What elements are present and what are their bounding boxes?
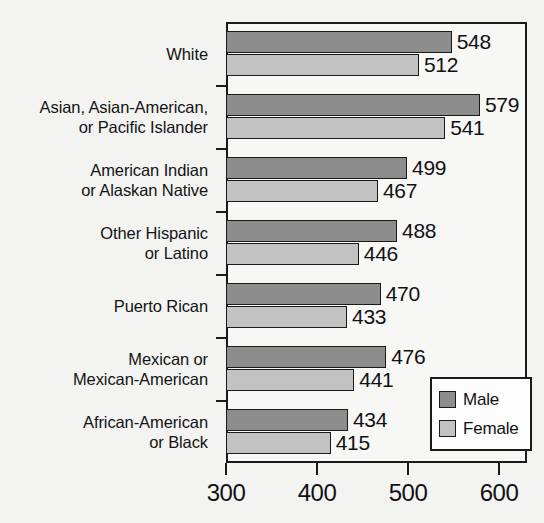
bar-rect-male[interactable] [226, 94, 480, 116]
bar-value-label-male: 499 [412, 157, 446, 179]
bar-value-label-female: 541 [450, 117, 484, 139]
bar-female[interactable]: 441 [226, 369, 393, 391]
x-axis-tick [225, 463, 227, 475]
category-group: Asian, Asian-American,or Pacific Islande… [0, 85, 544, 148]
bar-male[interactable]: 488 [226, 220, 436, 242]
bar-rect-female[interactable] [226, 54, 419, 76]
bar-rect-male[interactable] [226, 283, 381, 305]
category-group: White548512 [0, 22, 544, 85]
category-label-line: African-American [83, 412, 208, 432]
bar-male[interactable]: 470 [226, 283, 420, 305]
category-label-line: Other Hispanic [100, 223, 208, 243]
legend-label-female: Female [463, 419, 519, 439]
x-axis-tick-labels: 300400500600 [0, 479, 544, 513]
bars-area: 548512 [226, 22, 544, 85]
legend-label-male: Male [463, 390, 499, 410]
bar-rect-male[interactable] [226, 31, 452, 53]
category-label-line: Mexican-American [73, 369, 208, 389]
bar-female[interactable]: 467 [226, 180, 417, 202]
category-label-line: Puerto Rican [114, 296, 208, 316]
x-axis-tick-label: 500 [389, 479, 428, 507]
bar-value-label-male: 488 [402, 220, 436, 242]
category-label-line: or Alaskan Native [81, 180, 208, 200]
bars-area: 499467 [226, 148, 544, 211]
bar-rect-female[interactable] [226, 306, 347, 328]
y-axis-tick [216, 148, 227, 150]
legend-item-male: Male [439, 385, 524, 414]
bar-female[interactable]: 433 [226, 306, 386, 328]
category-label-line: White [166, 44, 208, 64]
bar-rect-male[interactable] [226, 409, 348, 431]
category-label-line: or Pacific Islander [79, 117, 208, 137]
bar-female[interactable]: 415 [226, 432, 370, 454]
category-label-line: Mexican or [128, 349, 208, 369]
x-axis-tick-label: 400 [298, 479, 337, 507]
legend-swatch-male-icon [439, 391, 456, 408]
category-group: American Indianor Alaskan Native499467 [0, 148, 544, 211]
y-axis-tick [216, 337, 227, 339]
bar-male[interactable]: 579 [226, 94, 519, 116]
category-label-line: Asian, Asian-American, [40, 97, 208, 117]
x-axis-tick [498, 463, 500, 475]
bar-value-label-female: 467 [383, 180, 417, 202]
category-label: Asian, Asian-American,or Pacific Islande… [0, 85, 216, 148]
grouped-bar-chart: White548512Asian, Asian-American,or Paci… [0, 0, 544, 523]
legend-item-female: Female [439, 414, 524, 443]
x-axis-tick [407, 463, 409, 475]
bars-area: 579541 [226, 85, 544, 148]
y-axis-tick [216, 400, 227, 402]
bar-rect-male[interactable] [226, 346, 386, 368]
x-axis-tick-label: 300 [207, 479, 246, 507]
bar-male[interactable]: 434 [226, 409, 387, 431]
legend-swatch-female-icon [439, 420, 456, 437]
y-axis-tick [216, 274, 227, 276]
bar-value-label-female: 512 [424, 54, 458, 76]
category-label: Other Hispanicor Latino [0, 211, 216, 274]
bar-rect-female[interactable] [226, 243, 359, 265]
bar-value-label-female: 441 [359, 369, 393, 391]
y-axis-tick [216, 85, 227, 87]
category-group: Puerto Rican470433 [0, 274, 544, 337]
category-label: Puerto Rican [0, 274, 216, 337]
bar-male[interactable]: 499 [226, 157, 446, 179]
category-label-line: or Black [149, 432, 208, 452]
bar-rect-female[interactable] [226, 117, 445, 139]
bar-value-label-male: 579 [485, 94, 519, 116]
category-label-line: or Latino [145, 243, 208, 263]
bars-area: 488446 [226, 211, 544, 274]
bar-rect-female[interactable] [226, 432, 331, 454]
y-axis-tick [216, 211, 227, 213]
x-axis-tick-marks [0, 463, 544, 477]
x-axis-tick-label: 600 [480, 479, 519, 507]
category-label: Mexican orMexican-American [0, 337, 216, 400]
bar-value-label-male: 470 [386, 283, 420, 305]
bar-rect-female[interactable] [226, 180, 378, 202]
bar-value-label-male: 476 [391, 346, 425, 368]
x-axis-tick [316, 463, 318, 475]
bar-male[interactable]: 548 [226, 31, 491, 53]
bar-rect-male[interactable] [226, 157, 407, 179]
bar-value-label-female: 433 [352, 306, 386, 328]
bar-female[interactable]: 541 [226, 117, 484, 139]
legend: Male Female [430, 377, 532, 451]
bars-area: 470433 [226, 274, 544, 337]
bar-rect-female[interactable] [226, 369, 354, 391]
bar-rect-male[interactable] [226, 220, 397, 242]
category-label: White [0, 22, 216, 85]
bar-value-label-female: 415 [336, 432, 370, 454]
bar-value-label-male: 434 [353, 409, 387, 431]
bar-male[interactable]: 476 [226, 346, 425, 368]
category-label-line: American Indian [90, 160, 208, 180]
bar-value-label-female: 446 [364, 243, 398, 265]
category-group: Other Hispanicor Latino488446 [0, 211, 544, 274]
category-label: African-Americanor Black [0, 400, 216, 463]
bar-female[interactable]: 512 [226, 54, 458, 76]
bar-value-label-male: 548 [457, 31, 491, 53]
bar-female[interactable]: 446 [226, 243, 398, 265]
category-label: American Indianor Alaskan Native [0, 148, 216, 211]
